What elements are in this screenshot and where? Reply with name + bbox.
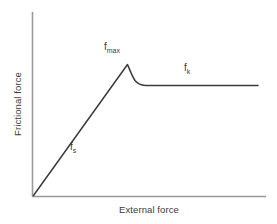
chart-plot-area <box>0 0 277 224</box>
label-f-max: fmax <box>104 41 120 52</box>
label-f-static: fs <box>70 141 76 152</box>
f-s-subscript: s <box>73 147 77 154</box>
x-axis-title: External force <box>32 204 266 215</box>
friction-force-chart: Frictional force External force fmax fk … <box>0 0 277 224</box>
f-k-subscript: k <box>187 68 191 75</box>
friction-curve <box>34 65 259 196</box>
label-f-kinetic: fk <box>184 62 190 73</box>
y-axis-title: Frictional force <box>11 12 25 196</box>
f-max-subscript: max <box>107 47 120 54</box>
